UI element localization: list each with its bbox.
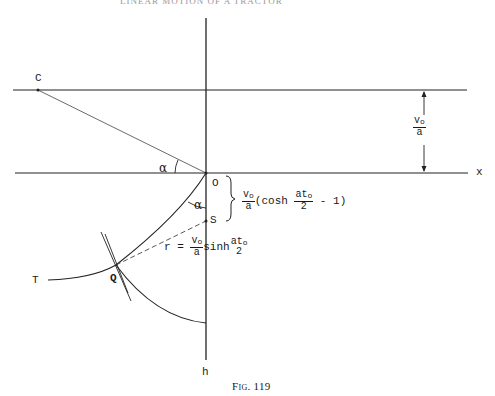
label-point-q: Q <box>110 273 117 284</box>
arrowhead-down-icon <box>422 166 427 172</box>
brace-frac2-num: at <box>295 189 307 200</box>
dimension-fraction: vo a <box>413 116 426 138</box>
label-x-axis: x <box>476 167 483 178</box>
tangent-line-2 <box>105 234 128 293</box>
radius-frac2-num: at <box>231 236 243 247</box>
label-alpha-bottom: α <box>194 199 202 211</box>
dim-num-sub: o <box>420 117 425 126</box>
arrowhead-up-icon <box>422 91 427 97</box>
radius-frac2-den: 2 <box>236 247 242 258</box>
brace-frac2: ato 2 <box>294 190 313 212</box>
brace-cosh: (cosh <box>255 195 295 207</box>
radius-expression: r = vo a sinh ato 2 <box>164 232 248 262</box>
label-h-axis: h <box>202 367 209 378</box>
brace-frac1-sub: o <box>249 191 254 200</box>
line-c-to-o <box>38 90 206 173</box>
radius-lhs: r = <box>164 241 190 253</box>
radius-frac1-den: a <box>194 248 200 259</box>
brace-frac2-sub: o <box>307 191 312 200</box>
label-point-c: C <box>35 73 42 84</box>
label-point-s: S <box>210 215 217 226</box>
brace-icon <box>226 176 235 221</box>
tangent-line-1 <box>101 232 131 301</box>
label-point-t: T <box>32 275 39 286</box>
point-c <box>37 89 40 92</box>
radius-frac2-sub: o <box>243 238 248 247</box>
point-s <box>205 220 208 223</box>
brace-tail: - 1) <box>313 195 346 207</box>
radius-frac1: vo a <box>190 236 203 258</box>
radius-frac1-sub: o <box>197 237 202 246</box>
figure-caption: Fig. 119 <box>232 380 271 392</box>
brace-frac1-den: a <box>245 202 251 213</box>
label-alpha-top: α <box>159 162 167 174</box>
brace-frac1: vo a <box>242 190 255 212</box>
dim-den: a <box>416 128 422 139</box>
angle-arc-top <box>175 160 178 173</box>
brace-expression: vo a (cosh ato 2 - 1) <box>242 186 346 216</box>
tractrix-curve <box>48 265 116 280</box>
label-point-o: O <box>212 178 219 189</box>
brace-frac2-den: 2 <box>301 202 307 213</box>
radius-frac2: ato 2 <box>230 237 249 258</box>
radius-func: sinh <box>203 241 229 253</box>
